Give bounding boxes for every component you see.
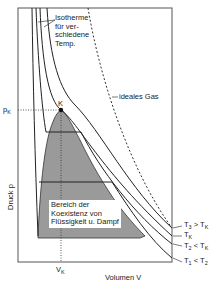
coex-line-3: Flüssigkeit u. Dampf (51, 218, 119, 227)
t2-rest: < T (192, 241, 205, 250)
curve-label-tk: TK (184, 231, 192, 241)
t2-leader (173, 244, 182, 246)
t3-rest-sub: K (205, 224, 209, 230)
x-axis-label: Volumen V (105, 274, 141, 283)
t2-rest-sub: K (205, 245, 209, 251)
curve-label-t2: T2 < TK (184, 242, 208, 252)
isotherm-line-4: Temp. (55, 40, 89, 49)
t1-rest: < T (192, 256, 205, 265)
curve-label-t1: T1 < T2 (184, 257, 208, 267)
t1-leader (173, 258, 182, 262)
t3-leader (173, 226, 182, 228)
coexistence-label: Bereich der Koexistenz von Flüssigkeit u… (49, 200, 121, 228)
t1-rest-sub: 2 (205, 260, 208, 266)
pk-sub: K (7, 109, 11, 115)
critical-point-label: K (58, 100, 63, 109)
pk-label: pK (3, 106, 11, 116)
y-axis-label: Druck p (6, 184, 15, 210)
ideal-gas-label: ideales Gas (119, 93, 159, 102)
tk-sub: K (189, 234, 193, 240)
vk-sub: K (61, 269, 65, 275)
t3-rest: > T (192, 220, 205, 229)
vk-label: VK (56, 266, 65, 276)
isotherm-annotation: Isotherme für ver- schiedene Temp. (55, 14, 89, 48)
